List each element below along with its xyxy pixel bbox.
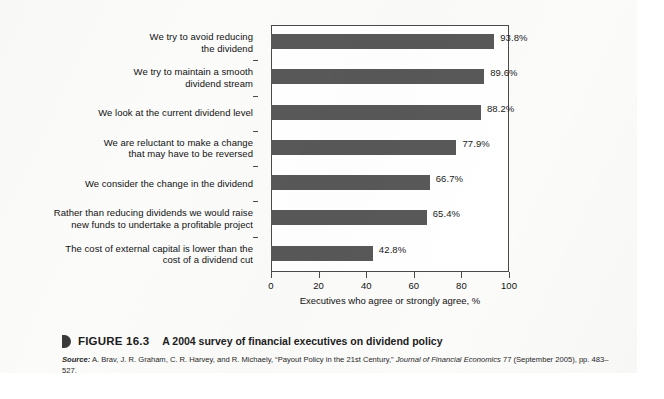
category-label: We try to maintain a smooth dividend str…	[134, 66, 253, 89]
y-axis-tick	[253, 60, 258, 61]
figure-caption: FIGURE 16.3 A 2004 survey of financial e…	[62, 333, 622, 376]
x-axis-title: Executives who agree or strongly agree, …	[271, 295, 509, 306]
bar-row: 89.6%	[271, 60, 509, 95]
x-axis-tick	[461, 272, 462, 278]
bar	[271, 246, 373, 261]
category-label: The cost of external capital is lower th…	[65, 243, 253, 266]
x-axis-tick	[366, 272, 367, 278]
category-label: Rather than reducing dividends we would …	[54, 207, 253, 230]
x-axis-tick	[271, 272, 272, 278]
x-axis-tick-label: 60	[409, 280, 420, 291]
figure-container: We try to avoid reducing the dividendWe …	[0, 0, 637, 373]
category-row: We try to avoid reducing the dividend	[40, 25, 253, 60]
bar	[271, 140, 456, 155]
bar-row: 88.2%	[271, 96, 509, 131]
x-axis-tick	[414, 272, 415, 278]
source-label: Source:	[62, 355, 90, 364]
x-axis-tick	[319, 272, 320, 278]
bar	[271, 210, 427, 225]
x-axis-tick-label: 100	[501, 280, 517, 291]
y-axis-tick	[253, 131, 258, 132]
source-citation: Source: A. Brav, J. R. Graham, C. R. Har…	[62, 355, 610, 376]
scanned-page: We try to avoid reducing the dividendWe …	[0, 0, 637, 373]
figure-marker-icon	[62, 335, 71, 348]
bar	[271, 69, 484, 84]
category-label-column: We try to avoid reducing the dividendWe …	[40, 25, 253, 272]
bar-value-label: 89.6%	[490, 67, 517, 78]
bar-value-label: 93.8%	[500, 32, 527, 43]
bar	[271, 105, 481, 120]
y-axis-tick	[253, 96, 258, 97]
category-label: We try to avoid reducing the dividend	[150, 31, 253, 54]
x-axis-tick	[509, 272, 510, 278]
bar-row: 66.7%	[271, 166, 509, 201]
category-row: We are reluctant to make a change that m…	[40, 131, 253, 166]
source-journal: Journal of Financial Economics	[396, 355, 501, 364]
bar-value-label: 77.9%	[462, 138, 489, 149]
bar-value-label: 42.8%	[379, 244, 406, 255]
bar-value-label: 66.7%	[436, 173, 463, 184]
category-label: We consider the change in the dividend	[85, 178, 253, 190]
source-authors: A. Brav, J. R. Graham, C. R. Harvey, and…	[90, 355, 395, 364]
category-label: We are reluctant to make a change that m…	[104, 137, 253, 160]
bar-value-label: 88.2%	[487, 103, 514, 114]
bar-row: 42.8%	[271, 237, 509, 272]
y-axis-tick	[253, 201, 258, 202]
bar-row: 77.9%	[271, 131, 509, 166]
bar	[271, 34, 494, 49]
y-axis-tick	[253, 237, 258, 238]
figure-title: A 2004 survey of financial executives on…	[162, 335, 442, 347]
figure-number: FIGURE 16.3	[78, 335, 149, 347]
x-axis-tick-label: 80	[456, 280, 467, 291]
x-axis-tick-label: 20	[313, 280, 324, 291]
bar-row: 65.4%	[271, 201, 509, 236]
category-row: We try to maintain a smooth dividend str…	[40, 60, 253, 95]
category-row: We consider the change in the dividend	[40, 166, 253, 201]
bars-layer: 93.8%89.6%88.2%77.9%66.7%65.4%42.8%	[271, 25, 509, 272]
bar	[271, 175, 430, 190]
category-row: The cost of external capital is lower th…	[40, 237, 253, 272]
category-row: Rather than reducing dividends we would …	[40, 201, 253, 236]
bar-value-label: 65.4%	[433, 208, 460, 219]
category-label: We look at the current dividend level	[98, 107, 253, 119]
x-axis-tick-label: 40	[361, 280, 372, 291]
caption-heading: FIGURE 16.3 A 2004 survey of financial e…	[62, 333, 622, 349]
y-axis-tick	[253, 166, 258, 167]
x-axis-tick-label: 0	[268, 280, 273, 291]
category-row: We look at the current dividend level	[40, 96, 253, 131]
bar-row: 93.8%	[271, 25, 509, 60]
